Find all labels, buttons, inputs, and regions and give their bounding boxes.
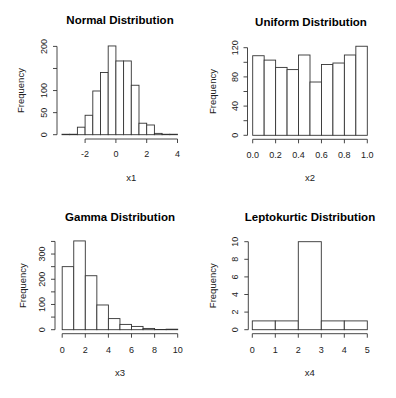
- histogram-bar: [120, 324, 132, 329]
- histogram-bar: [264, 60, 275, 135]
- panel-title: Uniform Distribution: [255, 16, 367, 28]
- y-tick-label: 100: [39, 83, 49, 98]
- x-tick-label: 1.0: [361, 150, 374, 160]
- histogram-bar: [344, 321, 367, 330]
- x-tick-label: 0.8: [338, 150, 351, 160]
- histogram-bar: [132, 326, 144, 329]
- histogram-bar: [321, 321, 344, 330]
- histogram-bar: [356, 46, 367, 135]
- x-axis-label: x2: [305, 172, 315, 183]
- histogram-bar: [333, 63, 344, 135]
- histogram-bar: [77, 127, 85, 135]
- x-tick-label: 3: [319, 345, 324, 355]
- x-tick-label: 4: [175, 149, 180, 159]
- x-axis-label: x4: [305, 367, 315, 378]
- histogram-bar: [275, 321, 298, 330]
- y-tick-label: 8: [230, 257, 240, 262]
- x-axis-label: x3: [115, 367, 125, 378]
- histogram-bar: [287, 70, 298, 136]
- x-axis-label: x1: [126, 172, 136, 183]
- y-axis-label: Frequency: [17, 263, 28, 308]
- y-tick-label: 300: [37, 247, 47, 262]
- histogram-bar: [62, 267, 74, 330]
- x-tick-label: 10: [173, 345, 183, 355]
- panel-title: Leptokurtic Distribution: [245, 211, 375, 223]
- histogram-bar: [108, 319, 120, 330]
- y-axis-label: Frequency: [15, 68, 26, 113]
- x-tick-label: 1: [273, 345, 278, 355]
- histogram-bar: [108, 46, 116, 135]
- y-axis-label: Frequency: [207, 263, 218, 308]
- y-tick-label: 6: [230, 274, 240, 279]
- y-tick-label: 80: [230, 72, 240, 82]
- histogram-bar: [124, 61, 132, 135]
- histogram-bar: [344, 55, 355, 135]
- y-tick-label: 2: [230, 310, 240, 315]
- x-tick-label: 0.6: [315, 150, 328, 160]
- y-tick-label: 0: [230, 133, 240, 138]
- y-axis-label: Frequency: [207, 69, 218, 114]
- x-tick-label: 0.4: [292, 150, 305, 160]
- x-tick-label: 2: [296, 345, 301, 355]
- x-tick-label: 0: [60, 345, 65, 355]
- y-tick-label: 120: [230, 40, 240, 55]
- histogram-bar: [139, 123, 147, 134]
- x-tick-label: 6: [129, 345, 134, 355]
- histogram-bar: [253, 56, 264, 136]
- x-tick-label: 5: [365, 345, 370, 355]
- y-tick-label: 100: [37, 297, 47, 312]
- histogram-bar: [154, 133, 162, 134]
- x-tick-label: 0.0: [246, 150, 259, 160]
- histogram-bar: [97, 305, 109, 330]
- y-tick-label: 10: [230, 237, 240, 247]
- y-tick-label: 4: [230, 292, 240, 297]
- histogram-bar: [321, 64, 332, 135]
- y-tick-label: 50: [39, 108, 49, 118]
- y-tick-label: 0: [230, 327, 240, 332]
- y-tick-label: 200: [37, 272, 47, 287]
- histogram-bar: [276, 67, 287, 135]
- y-tick-label: 0: [37, 327, 47, 332]
- x-tick-label: -2: [81, 149, 89, 159]
- x-tick-label: 8: [152, 345, 157, 355]
- histogram-bar: [85, 276, 97, 330]
- panel-title: Normal Distribution: [66, 14, 173, 26]
- histogram-bar: [116, 61, 124, 135]
- x-tick-label: 0.2: [269, 150, 282, 160]
- histogram-bar: [101, 72, 109, 134]
- histogram-bar: [85, 115, 93, 134]
- x-tick-label: 4: [342, 345, 347, 355]
- y-tick-label: 200: [39, 39, 49, 54]
- histogram-bar: [298, 242, 321, 330]
- y-tick-label: 40: [230, 101, 240, 111]
- histogram-bar: [310, 82, 321, 135]
- histogram-bar: [131, 85, 139, 134]
- panel-title: Gamma Distribution: [65, 211, 175, 223]
- x-tick-label: 2: [144, 149, 149, 159]
- x-tick-label: 0: [250, 345, 255, 355]
- histogram-figure: Normal Distribution 050100200 -2024 x1 F…: [0, 0, 396, 398]
- histogram-bar: [93, 91, 101, 135]
- histogram-bar: [252, 321, 275, 330]
- figure-background: [0, 0, 396, 398]
- x-tick-label: 0: [113, 149, 118, 159]
- histogram-bar: [299, 55, 310, 135]
- x-tick-label: 4: [106, 345, 111, 355]
- x-tick-label: 2: [83, 345, 88, 355]
- histogram-bar: [166, 329, 178, 330]
- y-tick-label: 0: [39, 132, 49, 137]
- histogram-bar: [147, 125, 155, 135]
- histogram-bar: [74, 241, 86, 330]
- histogram-bar: [143, 328, 155, 329]
